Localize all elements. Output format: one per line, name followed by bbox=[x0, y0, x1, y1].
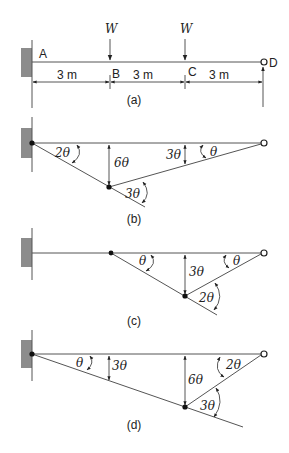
point-label-a: A bbox=[39, 47, 47, 61]
plastic-hinge-icon bbox=[109, 251, 114, 256]
span-label-ab: 3 m bbox=[57, 68, 77, 82]
point-label-d: D bbox=[269, 56, 278, 70]
panel-c: θ 3θ θ 2θ (c) bbox=[21, 228, 267, 328]
load-label-1: W bbox=[105, 22, 119, 36]
plastic-hinge-icon bbox=[29, 140, 34, 145]
span-label-cd: 3 m bbox=[209, 68, 229, 82]
deflection-label: 6θ bbox=[114, 156, 130, 170]
load-label-2: W bbox=[180, 22, 194, 36]
deflection-label: 3θ bbox=[166, 148, 182, 162]
caption-a: (a) bbox=[127, 93, 142, 107]
angle-label: 3θ bbox=[200, 399, 216, 413]
panel-b: 6θ 2θ 3θ 3θ θ (b) bbox=[21, 117, 267, 226]
caption-d: (d) bbox=[127, 418, 142, 432]
angle-label: θ bbox=[139, 254, 147, 268]
fixed-support-wall bbox=[21, 238, 32, 267]
angle-label: 2θ bbox=[225, 358, 242, 372]
fixed-support-wall bbox=[21, 48, 32, 77]
angle-label: 2θ bbox=[54, 146, 71, 160]
caption-b: (b) bbox=[127, 212, 142, 226]
panel-d: θ 3θ 6θ 2θ 3θ (d) bbox=[21, 330, 267, 432]
angle-label: 3θ bbox=[125, 187, 141, 201]
angle-label: 2θ bbox=[198, 291, 215, 305]
plastic-hinge-icon bbox=[29, 351, 34, 356]
point-label-c: C bbox=[188, 65, 197, 79]
plastic-hinge-icon bbox=[182, 293, 187, 298]
span-label-bc: 3 m bbox=[133, 68, 153, 82]
caption-c: (c) bbox=[127, 314, 141, 328]
pin-support-icon bbox=[261, 140, 267, 146]
plastic-hinge-icon bbox=[106, 184, 111, 189]
panel-a: W W A B C D 3 m 3 m 3 m (a) bbox=[21, 22, 278, 108]
angle-label: θ bbox=[233, 254, 241, 268]
plastic-hinge-icon bbox=[182, 404, 187, 409]
point-label-b: B bbox=[112, 67, 120, 81]
pin-support-icon bbox=[261, 59, 267, 65]
angle-label: θ bbox=[76, 356, 84, 370]
pin-support-icon bbox=[261, 351, 267, 357]
deflection-label: 3θ bbox=[112, 359, 128, 373]
angle-label: θ bbox=[210, 145, 218, 159]
deflection-label: 6θ bbox=[188, 373, 204, 387]
beam-mechanism-diagram: W W A B C D 3 m 3 m 3 m (a) 6θ 2θ bbox=[0, 0, 289, 453]
pin-support-icon bbox=[261, 250, 267, 256]
deflection-label: 3θ bbox=[189, 265, 205, 279]
